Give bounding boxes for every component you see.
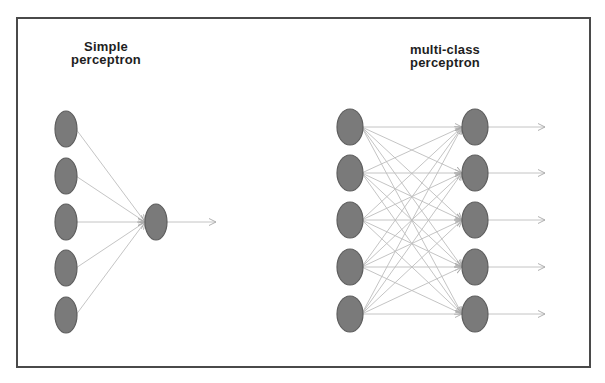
simple-perceptron-input-node [55, 204, 77, 240]
multi-class-perceptron-output-node [462, 202, 488, 238]
simple-perceptron-connection-edge [76, 222, 145, 315]
simple-perceptron-network [55, 111, 216, 333]
simple-perceptron-input-node [55, 297, 77, 333]
simple-perceptron-input-node [55, 250, 77, 286]
multi-class-perceptron-output-node [462, 155, 488, 191]
network-diagram [0, 0, 605, 383]
multi-class-perceptron-edges [362, 127, 545, 314]
multi-class-perceptron-output-node [462, 249, 488, 285]
simple-perceptron-output-node [145, 204, 167, 240]
multi-class-perceptron-output-node [462, 109, 488, 145]
multi-class-perceptron-network [337, 109, 545, 332]
multi-class-perceptron-output-node [462, 296, 488, 332]
multi-class-perceptron-input-node [337, 155, 363, 191]
simple-perceptron-connection-edge [76, 222, 145, 268]
multi-class-perceptron-input-node [337, 109, 363, 145]
simple-perceptron-connection-edge [76, 129, 145, 222]
multi-class-perceptron-input-node [337, 296, 363, 332]
simple-perceptron-input-node [55, 158, 77, 194]
multi-class-perceptron-input-node [337, 202, 363, 238]
simple-perceptron-connection-edge [76, 176, 145, 222]
multi-class-perceptron-input-node [337, 249, 363, 285]
simple-perceptron-input-node [55, 111, 77, 147]
